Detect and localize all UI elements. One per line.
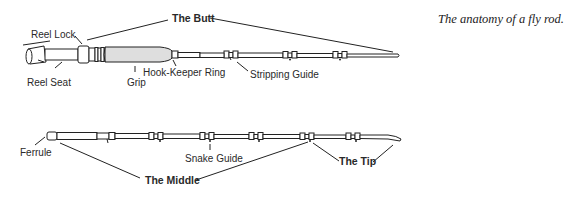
snake-guide-2	[200, 133, 214, 143]
label-ferrule: Ferrule	[20, 147, 52, 158]
label-reel-seat: Reel Seat	[27, 77, 71, 88]
label-reel-lock: Reel Lock	[31, 29, 76, 40]
grip-shape	[104, 47, 172, 62]
snake-guide-4	[300, 133, 314, 142]
snake-guide-5	[346, 133, 360, 142]
figure-caption: The anatomy of a fly rod.	[438, 12, 564, 27]
stripping-guide-1	[224, 51, 238, 60]
label-hook-keeper-ring: Hook-Keeper Ring	[143, 67, 225, 78]
tip-top-shape	[360, 135, 401, 141]
label-the-tip: The Tip	[339, 155, 376, 167]
label-the-butt: The Butt	[172, 12, 215, 24]
ferrule-shape	[47, 132, 57, 140]
stripping-guide-2	[283, 52, 297, 61]
label-the-middle: The Middle	[145, 174, 200, 186]
label-snake-guide: Snake Guide	[185, 153, 243, 164]
reel-seat-shape	[26, 46, 78, 64]
reel-lock-shape	[78, 46, 104, 63]
label-grip: Grip	[127, 77, 146, 88]
butt-leader-lines	[23, 18, 393, 72]
label-stripping-guide: Stripping Guide	[250, 69, 319, 80]
butt-section-rod	[26, 46, 399, 64]
middle-tip-rod	[47, 132, 401, 143]
snake-guide-3	[249, 133, 263, 143]
stripping-guide-3	[333, 52, 347, 61]
snake-guide-1	[149, 133, 163, 143]
